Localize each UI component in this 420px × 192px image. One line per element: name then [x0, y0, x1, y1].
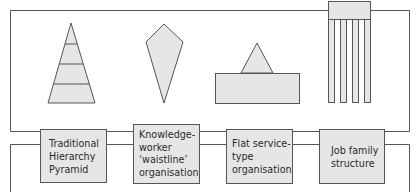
pyramid-shape [48, 23, 95, 103]
waistline-kite-shape [146, 24, 183, 103]
label-knowledge-worker-waistline: Knowledge- worker ‘waistline’ organisati… [133, 124, 200, 184]
flat-service-shape [216, 43, 300, 104]
label-job-family-structure: Job family structure [319, 129, 385, 184]
label-flat-service-type: Flat service- type organisation [226, 129, 293, 184]
job-family-shape [329, 2, 371, 103]
label-traditional-hierarchy-pyramid: Traditional Hierarchy Pyramid [40, 129, 107, 183]
